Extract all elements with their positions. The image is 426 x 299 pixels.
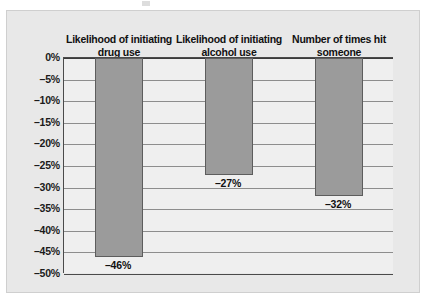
column-header-line-1: Likelihood of initiating — [167, 33, 291, 46]
bar — [205, 58, 253, 175]
column-header-line-1: Number of times hit — [277, 33, 401, 46]
column-header-drug-use: Likelihood of initiating drug use — [57, 33, 181, 58]
column-header-hit-someone: Number of times hit someone — [277, 33, 401, 58]
column-header-line-1: Likelihood of initiating — [57, 33, 181, 46]
plot-area — [63, 57, 393, 273]
chart-figure: Likelihood of initiating drug use Likeli… — [0, 0, 426, 299]
column-header-alcohol-use: Likelihood of initiating alcohol use — [167, 33, 291, 58]
bar — [95, 58, 143, 257]
bar-value-label: –27% — [198, 177, 258, 189]
bar-value-label: –32% — [308, 198, 368, 210]
bar — [315, 58, 363, 196]
gridline — [64, 274, 393, 275]
bar-value-label: –46% — [88, 259, 148, 271]
scan-artifact-speck — [142, 1, 150, 6]
